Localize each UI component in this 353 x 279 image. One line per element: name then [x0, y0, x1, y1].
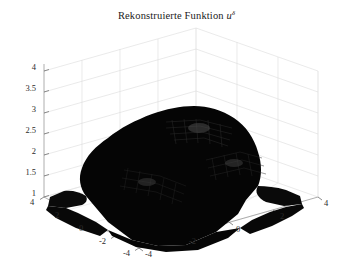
y-tick-0: 0	[79, 223, 83, 233]
y-tick-4: 4	[30, 197, 34, 207]
surface-mesh	[0, 0, 353, 279]
z-tick-2p5: 2.5	[14, 125, 36, 135]
z-tick-4: 4	[20, 62, 36, 72]
z-tick-3: 3	[20, 104, 36, 114]
x-tick-0: 0	[236, 224, 240, 234]
tick-marks-z	[44, 70, 49, 198]
y-tick-2: 2	[55, 210, 59, 220]
x-tick-4: 4	[324, 198, 328, 208]
z-tick-3p5: 3.5	[14, 83, 36, 93]
x-tick-m2: -2	[189, 236, 196, 246]
plot-canvas	[0, 0, 353, 279]
y-tick-m2: -2	[99, 236, 106, 246]
y-tick-m4: -4	[123, 248, 130, 258]
z-tick-1p5: 1.5	[14, 167, 36, 177]
x-tick-m4: -4	[145, 249, 152, 259]
x-tick-2: 2	[280, 211, 284, 221]
z-tick-2: 2	[20, 146, 36, 156]
figure-surface-plot: Rekonstruierte Funktion uδ	[0, 0, 353, 279]
